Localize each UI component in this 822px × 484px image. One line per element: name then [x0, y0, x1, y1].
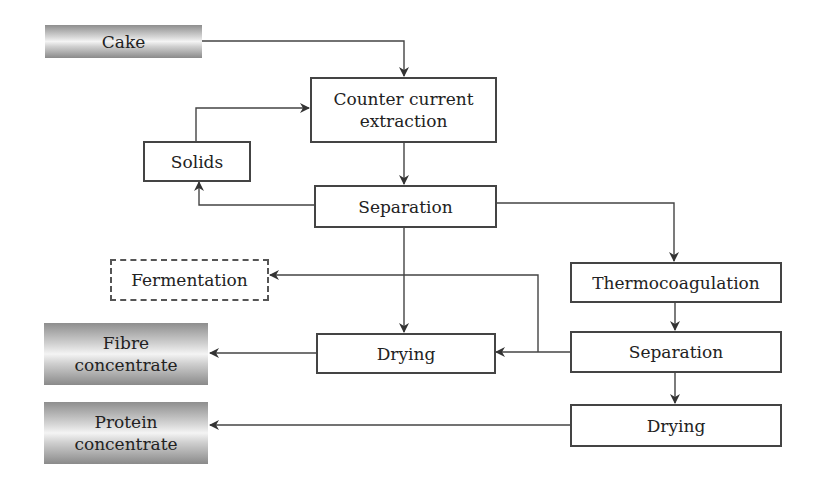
- node-fermentation: Fermentation: [110, 259, 269, 301]
- node-counter-current-extraction: Counter current extraction: [310, 77, 497, 143]
- process-flow-diagram: Cake Counter current extraction Solids S…: [0, 0, 822, 484]
- node-label: Separation: [629, 341, 723, 363]
- node-fibre-concentrate: Fibre concentrate: [44, 323, 208, 385]
- node-drying-1: Drying: [316, 333, 496, 374]
- node-label: Thermocoagulation: [592, 272, 760, 294]
- node-label: Cake: [102, 31, 146, 53]
- node-label: Drying: [377, 343, 436, 365]
- node-drying-2: Drying: [570, 404, 782, 447]
- node-label: Protein concentrate: [74, 411, 177, 455]
- node-separation-2: Separation: [570, 331, 782, 373]
- node-protein-concentrate: Protein concentrate: [44, 402, 208, 464]
- node-label: Solids: [171, 151, 223, 173]
- node-solids: Solids: [143, 141, 251, 182]
- node-label: Counter current extraction: [333, 88, 473, 132]
- node-thermocoagulation: Thermocoagulation: [570, 262, 782, 303]
- node-separation-1: Separation: [314, 185, 497, 228]
- node-label: Drying: [647, 415, 706, 437]
- node-label: Separation: [358, 196, 452, 218]
- node-label: Fermentation: [131, 269, 248, 291]
- node-label: Fibre concentrate: [74, 332, 177, 376]
- node-cake: Cake: [45, 25, 202, 58]
